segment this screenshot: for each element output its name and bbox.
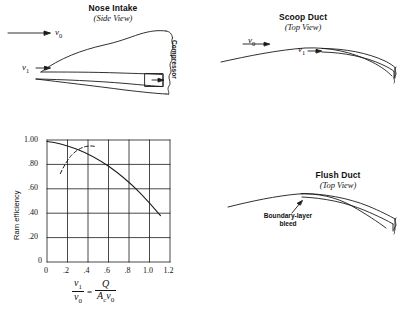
xtick-0-6: .6 [104, 266, 110, 275]
xtick-1-0: 1.0 [143, 266, 153, 275]
figure-linework [0, 0, 405, 313]
scoop-duct-v1-arrow [308, 49, 322, 52]
ytick-1-00: 1.00 [24, 135, 38, 144]
chart-grid [47, 140, 170, 262]
ytick-0-40: .40 [28, 208, 38, 217]
xtick-0-4: .4 [84, 266, 90, 275]
flush-duct-wall [228, 194, 386, 228]
ytick-0-20: .20 [28, 232, 38, 241]
nose-intake-cone-lower [41, 72, 162, 75]
chart-curve-solid [47, 141, 161, 215]
compressor-inflow-arrow [152, 78, 164, 81]
nose-intake-lower-lip-inner [36, 79, 162, 87]
nose-intake-top-ridge [166, 31, 173, 38]
nose-intake-aft-wall [163, 75, 168, 95]
ytick-0-80: .80 [28, 159, 38, 168]
xtick-0: 0 [44, 266, 48, 275]
ytick-0: 0 [38, 256, 42, 265]
compressor-break-line [168, 38, 173, 95]
nose-intake-upper-contour [41, 31, 166, 72]
xtick-0-2: .2 [63, 266, 69, 275]
chart-curve-dashed [60, 146, 95, 174]
xtick-0-8: .8 [125, 266, 131, 275]
ytick-0-60: .60 [28, 183, 38, 192]
scoop-duct-outer-cowl [322, 49, 395, 68]
xtick-1-2: 1.2 [164, 266, 174, 275]
nose-intake-v0-arrow [8, 31, 50, 35]
scoop-duct-wall [221, 48, 392, 76]
scoop-duct-v0-arrow [243, 42, 270, 45]
flush-duct-outer-cowl [301, 194, 395, 220]
boundary-layer-bleed-arrow [292, 201, 302, 213]
